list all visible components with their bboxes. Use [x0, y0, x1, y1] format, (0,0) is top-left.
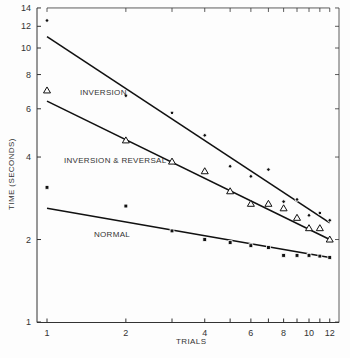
fit-lines [47, 37, 330, 258]
svg-text:1: 1 [44, 328, 49, 338]
svg-text:8: 8 [281, 328, 286, 338]
log-log-chart: 12468101214 124681012 INVERSION INVERSIO… [0, 0, 350, 358]
svg-text:4: 4 [202, 328, 207, 338]
label-normal: NORMAL [94, 230, 130, 239]
data-points [44, 19, 334, 260]
svg-text:14: 14 [21, 3, 31, 13]
svg-text:8: 8 [26, 70, 31, 80]
label-inversion: INVERSION [80, 88, 127, 97]
svg-text:6: 6 [248, 328, 253, 338]
svg-text:12: 12 [325, 328, 335, 338]
label-inversion-reversal: INVERSION & REVERSAL [64, 156, 167, 165]
svg-text:2: 2 [26, 235, 31, 245]
plot-frame [37, 8, 339, 323]
x-axis-ticks: 124681012 [44, 8, 334, 338]
x-axis-title: TRIALS [176, 337, 206, 346]
svg-text:12: 12 [21, 21, 31, 31]
svg-text:2: 2 [123, 328, 128, 338]
svg-text:10: 10 [304, 328, 314, 338]
svg-text:6: 6 [26, 104, 31, 114]
svg-text:10: 10 [21, 43, 31, 53]
svg-text:1: 1 [26, 317, 31, 327]
svg-text:4: 4 [26, 152, 31, 162]
y-axis-title: TIME (SECONDS) [7, 138, 16, 210]
